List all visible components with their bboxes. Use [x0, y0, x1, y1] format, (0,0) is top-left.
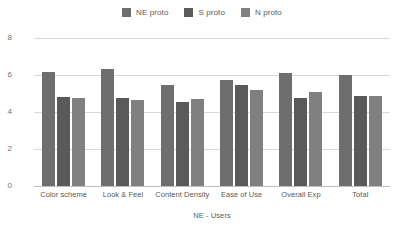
bar[interactable] [72, 98, 85, 186]
bar[interactable] [250, 90, 263, 186]
x-axis-title: NE - Users [34, 211, 390, 220]
legend-entry-n-proto[interactable]: N proto [241, 8, 282, 17]
legend-swatch-ne-proto [122, 8, 131, 17]
bar[interactable] [279, 73, 292, 186]
legend-label-ne-proto: NE proto [136, 8, 168, 17]
bar[interactable] [176, 102, 189, 186]
bar[interactable] [191, 99, 204, 186]
x-axis-tick-label: Total [331, 190, 390, 199]
y-axis-tick-label: 6 [0, 70, 12, 79]
bar[interactable] [309, 92, 322, 186]
bar[interactable] [42, 72, 55, 186]
legend-label-s-proto: S proto [198, 8, 225, 17]
bar[interactable] [57, 97, 70, 186]
bar-groups [34, 38, 390, 186]
bar[interactable] [161, 85, 174, 186]
y-axis-tick-label: 2 [0, 144, 12, 153]
bar[interactable] [294, 98, 307, 186]
legend-swatch-n-proto [241, 8, 250, 17]
y-axis-tick-label: 8 [0, 33, 12, 42]
bar[interactable] [131, 100, 144, 186]
bar[interactable] [101, 69, 114, 186]
bar[interactable] [220, 80, 233, 186]
legend-entry-ne-proto[interactable]: NE proto [122, 8, 168, 17]
bar-group [271, 38, 330, 186]
bar-chart: NE proto S proto N proto 02468 Color sch… [0, 0, 404, 236]
bar-group [331, 38, 390, 186]
bar[interactable] [116, 98, 129, 186]
bar[interactable] [369, 96, 382, 186]
bar-group [153, 38, 212, 186]
x-axis-tick-label: Content Density [153, 190, 212, 199]
x-axis-tick-label: Ease of Use [212, 190, 271, 199]
legend-label-n-proto: N proto [255, 8, 282, 17]
bar-group [34, 38, 93, 186]
chart-legend: NE proto S proto N proto [0, 8, 404, 17]
x-axis-category-labels: Color schemeLook & FeelContent DensityEa… [34, 190, 390, 199]
bar[interactable] [354, 96, 367, 186]
axis-baseline [34, 186, 390, 187]
plot-area: 02468 [34, 38, 390, 186]
bar-group [212, 38, 271, 186]
bar[interactable] [235, 85, 248, 186]
y-axis-tick-label: 0 [0, 181, 12, 190]
x-axis-tick-label: Overall Exp [271, 190, 330, 199]
bar-group [93, 38, 152, 186]
x-axis-tick-label: Look & Feel [93, 190, 152, 199]
y-axis-tick-label: 4 [0, 107, 12, 116]
legend-swatch-s-proto [184, 8, 193, 17]
legend-entry-s-proto[interactable]: S proto [184, 8, 225, 17]
bar[interactable] [339, 75, 352, 186]
x-axis-tick-label: Color scheme [34, 190, 93, 199]
